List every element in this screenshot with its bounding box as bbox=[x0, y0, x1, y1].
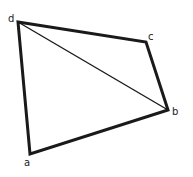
quadrilateral-outline bbox=[18, 22, 168, 154]
vertex-label-d: d bbox=[8, 13, 14, 24]
vertex-label-b: b bbox=[172, 106, 178, 117]
vertex-label-c: c bbox=[148, 31, 154, 42]
quadrilateral-diagram: d c b a bbox=[0, 0, 193, 177]
vertex-label-a: a bbox=[24, 157, 30, 168]
